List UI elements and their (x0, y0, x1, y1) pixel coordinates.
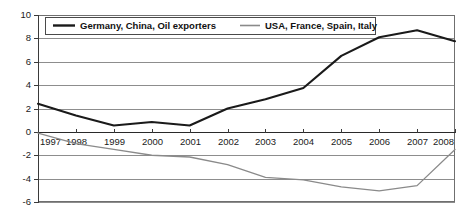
y-axis-label: 4 (26, 79, 31, 90)
chart-container: 1086420-2-4-6199719981999200020012002200… (0, 0, 476, 212)
x-axis-label-2003: 2003 (255, 136, 276, 147)
legend-label-light: USA, France, Spain, Italy (265, 20, 378, 31)
y-axis-label: 0 (26, 126, 31, 137)
x-axis-label-2008: 2008 (433, 136, 454, 147)
plot-background (38, 15, 455, 202)
x-axis-label-2004: 2004 (293, 136, 314, 147)
x-axis-label-2000: 2000 (142, 136, 163, 147)
y-axis-label: 8 (26, 32, 31, 43)
x-axis-label-2002: 2002 (218, 136, 239, 147)
x-axis-label-1999: 1999 (104, 136, 125, 147)
y-axis-label: 10 (20, 9, 31, 20)
legend-label-dark: Germany, China, Oil exporters (80, 20, 216, 31)
x-axis-label-2007: 2007 (407, 136, 428, 147)
y-axis-label: -2 (23, 149, 31, 160)
y-axis-label: -6 (23, 196, 31, 207)
x-axis-label-2001: 2001 (180, 136, 201, 147)
x-axis-label-1997: 1997 (40, 136, 61, 147)
y-axis-label: 6 (26, 56, 31, 67)
line-chart: 1086420-2-4-6199719981999200020012002200… (0, 0, 476, 212)
y-axis-label: 2 (26, 103, 31, 114)
x-axis-label-2005: 2005 (331, 136, 352, 147)
y-axis-label: -4 (23, 173, 31, 184)
x-axis-label-2006: 2006 (369, 136, 390, 147)
